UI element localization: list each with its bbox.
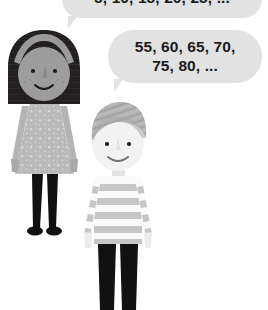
girl-right-shoe [46, 226, 62, 235]
girl-right-leg [47, 174, 58, 228]
girl-left-eye [31, 69, 35, 73]
girl-speech-bubble: 5, 10, 15, 20, 25, ... [62, 0, 262, 18]
girl-left-shoe [27, 226, 43, 235]
boy-left-leg [98, 244, 116, 310]
boy-shirt [84, 176, 152, 244]
girl-left-hand [11, 159, 19, 172]
boy-bubble-text: 55, 60, 65, 70, 75, 80, ... [135, 38, 236, 76]
girl-bubble-text: 5, 10, 15, 20, 25, ... [94, 0, 230, 8]
boy-bubble-line-2: 75, 80, ... [152, 57, 218, 74]
girl-dress-bodice [26, 104, 63, 120]
boy-left-eye [105, 142, 109, 146]
boy-right-leg [120, 244, 138, 310]
boy-speech-bubble: 55, 60, 65, 70, 75, 80, ... [108, 30, 262, 83]
boy-left-hand [84, 232, 92, 248]
boy-right-eye [127, 142, 131, 146]
boy-right-hand [144, 232, 152, 248]
boy-character [72, 98, 168, 310]
boy-bubble-line-1: 55, 60, 65, 70, [135, 38, 236, 55]
girl-right-eye [53, 69, 57, 73]
girl-left-leg [32, 174, 43, 228]
